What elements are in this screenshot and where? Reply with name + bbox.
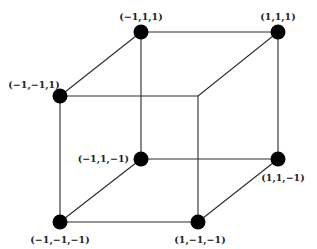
cube-vertices — [53, 25, 286, 230]
label-m1-1-m1: (−1,1,−1) — [78, 153, 129, 165]
cube-edges — [60, 32, 278, 222]
label-1-1-m1: (1,1,−1) — [261, 172, 304, 184]
vertex-dot — [53, 215, 68, 230]
cube-diagram: (−1,1,1) (1,1,1) (−1,−1,1) (−1,1,−1) (1,… — [0, 0, 317, 249]
label-1-1-1: (1,1,1) — [260, 11, 295, 23]
vertex-dot — [134, 25, 149, 40]
vertex-dot — [134, 152, 149, 167]
label-m1-m1-m1: (−1,−1,−1) — [30, 234, 89, 246]
label-1-m1-m1: (1,−1,−1) — [174, 234, 225, 246]
vertex-dot — [271, 152, 286, 167]
label-m1-m1-1: (−1,−1,1) — [8, 79, 59, 91]
cube-edge — [198, 32, 278, 96]
label-m1-1-1: (−1,1,1) — [119, 11, 162, 23]
cube-edge — [60, 159, 141, 222]
vertex-dot — [53, 89, 68, 104]
vertex-dot — [271, 25, 286, 40]
cube-edge — [198, 159, 278, 222]
cube-edge — [60, 32, 141, 96]
vertex-dot — [191, 215, 206, 230]
